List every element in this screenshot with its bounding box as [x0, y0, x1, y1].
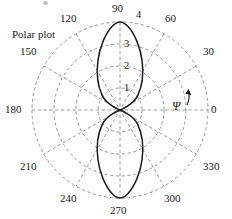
angle-variable-symbol: Ψ	[172, 101, 180, 112]
figure-caption: Polar plot	[12, 29, 55, 40]
theta-label-150: 150	[20, 46, 37, 57]
theta-label-0: 0	[211, 104, 217, 115]
r-label-1: 1	[124, 82, 129, 93]
theta-label-210: 210	[20, 161, 37, 172]
arrow-head-icon	[185, 89, 191, 95]
theta-label-30: 30	[203, 46, 214, 57]
theta-label-180: 180	[5, 104, 22, 115]
theta-label-300: 300	[164, 193, 181, 204]
theta-label-240: 240	[60, 193, 77, 204]
r-label-2: 2	[124, 60, 129, 71]
r-label-4: 4	[136, 9, 141, 20]
rotation-direction-arrow	[185, 89, 191, 105]
r-label-3: 3	[124, 38, 129, 49]
theta-label-60: 60	[165, 13, 176, 24]
theta-label-270: 270	[110, 205, 127, 216]
theta-label-330: 330	[203, 161, 220, 172]
polar-plot-figure: Polar plot 0 30 60 90 120 150 180 210 24…	[0, 0, 232, 219]
theta-label-120: 120	[60, 13, 77, 24]
theta-label-90: 90	[112, 3, 123, 14]
